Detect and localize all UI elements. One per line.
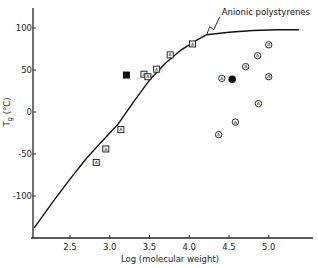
x-tick-label: 3.0 <box>103 242 117 252</box>
annotation-leader <box>207 17 220 35</box>
y-tick-label: 100 <box>16 23 32 33</box>
x-tick-label: 4.0 <box>182 242 196 252</box>
y-tick-label: 0 <box>27 107 32 117</box>
y-tick-label: 50 <box>21 65 32 75</box>
x-tick-label: 5.0 <box>262 242 276 252</box>
y-tick-label: -100 <box>13 191 32 201</box>
y-tick-label: -50 <box>18 149 32 159</box>
x-tick-label: 4.5 <box>222 242 236 252</box>
x-axis-title: Log (molecular weight) <box>121 254 219 264</box>
curve-path <box>34 30 299 228</box>
x-tick-label: 3.5 <box>143 242 157 252</box>
y-axis-title: Tg (°C) <box>2 97 14 127</box>
x-tick-label: 2.5 <box>63 242 77 252</box>
tg-vs-molecular-weight-chart: 100500-50-1002.53.03.54.04.55.0 AAAAAAAA… <box>0 0 318 268</box>
data-points: AAAAAAAAAAAAAAAA <box>93 41 272 165</box>
filled-square-marker <box>123 72 130 79</box>
anionic-polystyrenes-curve <box>34 30 299 228</box>
filled-circle-marker <box>228 75 236 83</box>
annotation-label: Anionic polystyrenes <box>222 7 311 17</box>
